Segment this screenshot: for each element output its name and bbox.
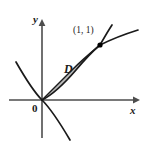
- intersection-point-dot: [97, 42, 102, 47]
- intersection-point-label: (1, 1): [73, 26, 94, 36]
- math-figure: y x 0 (1, 1) D: [0, 0, 145, 146]
- x-axis-arrowhead: [133, 96, 140, 103]
- curve-cubic: [16, 62, 70, 140]
- x-axis-label: x: [130, 105, 136, 116]
- region-label-d: D: [64, 63, 73, 75]
- y-axis-arrowhead: [39, 19, 46, 26]
- origin-label: 0: [32, 103, 38, 114]
- y-axis-label: y: [33, 14, 38, 25]
- curve-root-upper: [100, 30, 138, 45]
